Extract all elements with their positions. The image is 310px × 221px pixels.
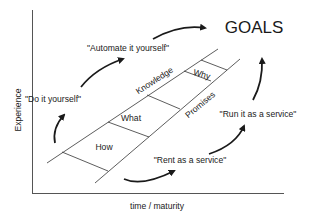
arrow-icon [124, 171, 174, 182]
arrow-icon [209, 126, 244, 154]
rung-label-why: Why [192, 67, 212, 82]
rail-label-promises: Promises [183, 89, 217, 120]
goals-label: GOALS [225, 18, 284, 37]
rung-label-what: What [121, 113, 142, 123]
y-axis-label: Experience [13, 88, 23, 131]
rung-label-how: How [95, 142, 113, 152]
ladder-diagram: Experience time / maturity How What Why … [0, 0, 310, 221]
label-rent-as-a-service: "Rent as a service" [154, 155, 227, 165]
ladder-rung [62, 152, 108, 171]
arrow-icon [253, 59, 262, 100]
arrow-icon [81, 59, 123, 87]
ladder-rung [147, 95, 180, 109]
label-automate-it-yourself: "Automate it yourself" [87, 43, 169, 53]
label-run-it-as-a-service: "Run it as a service" [220, 109, 297, 119]
arrow-icon [54, 115, 64, 143]
label-do-it-yourself: "Do it yourself" [25, 94, 81, 104]
arrow-icon [153, 27, 205, 39]
ladder-rung [108, 122, 149, 137]
ladder-rung [201, 60, 227, 70]
x-axis-label: time / maturity [130, 201, 185, 211]
